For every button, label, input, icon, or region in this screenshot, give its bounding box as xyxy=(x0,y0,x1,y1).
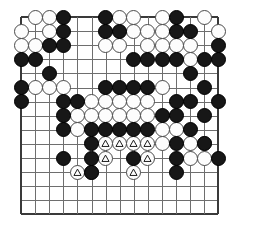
marked-white-stone[interactable] xyxy=(126,165,141,180)
black-stone[interactable] xyxy=(140,80,155,95)
black-stone[interactable] xyxy=(42,66,57,81)
marked-white-stone[interactable] xyxy=(70,165,85,180)
marked-white-stone[interactable] xyxy=(140,136,155,151)
white-stone[interactable] xyxy=(98,38,113,53)
black-stone[interactable] xyxy=(211,151,226,166)
white-stone[interactable] xyxy=(155,38,170,53)
black-stone[interactable] xyxy=(183,66,198,81)
black-stone[interactable] xyxy=(56,108,71,123)
white-stone[interactable] xyxy=(112,108,127,123)
white-stone[interactable] xyxy=(28,80,43,95)
black-stone[interactable] xyxy=(211,94,226,109)
black-stone[interactable] xyxy=(197,136,212,151)
black-stone[interactable] xyxy=(56,94,71,109)
black-stone[interactable] xyxy=(197,52,212,67)
black-stone[interactable] xyxy=(56,151,71,166)
white-stone[interactable] xyxy=(140,108,155,123)
goban[interactable] xyxy=(0,0,253,236)
black-stone[interactable] xyxy=(84,165,99,180)
white-stone[interactable] xyxy=(183,136,198,151)
black-stone[interactable] xyxy=(169,10,184,25)
white-stone[interactable] xyxy=(155,10,170,25)
black-stone[interactable] xyxy=(84,151,99,166)
black-stone[interactable] xyxy=(197,108,212,123)
black-stone[interactable] xyxy=(56,10,71,25)
marked-white-stone[interactable] xyxy=(126,136,141,151)
black-stone[interactable] xyxy=(28,52,43,67)
white-stone[interactable] xyxy=(42,10,57,25)
white-stone[interactable] xyxy=(155,24,170,39)
white-stone[interactable] xyxy=(183,38,198,53)
black-stone[interactable] xyxy=(56,24,71,39)
white-stone[interactable] xyxy=(84,94,99,109)
black-stone[interactable] xyxy=(70,94,85,109)
white-stone[interactable] xyxy=(42,80,57,95)
white-stone[interactable] xyxy=(98,94,113,109)
black-stone[interactable] xyxy=(197,80,212,95)
black-stone[interactable] xyxy=(183,94,198,109)
black-stone[interactable] xyxy=(169,151,184,166)
white-stone[interactable] xyxy=(140,38,155,53)
black-stone[interactable] xyxy=(140,52,155,67)
white-stone[interactable] xyxy=(140,24,155,39)
white-stone[interactable] xyxy=(28,38,43,53)
black-stone[interactable] xyxy=(126,80,141,95)
white-stone[interactable] xyxy=(28,10,43,25)
black-stone[interactable] xyxy=(155,108,170,123)
black-stone[interactable] xyxy=(112,80,127,95)
white-stone[interactable] xyxy=(112,10,127,25)
black-stone[interactable] xyxy=(56,38,71,53)
black-stone[interactable] xyxy=(84,122,99,137)
black-stone[interactable] xyxy=(169,52,184,67)
white-stone[interactable] xyxy=(84,108,99,123)
black-stone[interactable] xyxy=(98,10,113,25)
white-stone[interactable] xyxy=(169,38,184,53)
black-stone[interactable] xyxy=(126,151,141,166)
white-stone[interactable] xyxy=(70,108,85,123)
black-stone[interactable] xyxy=(169,165,184,180)
black-stone[interactable] xyxy=(98,24,113,39)
white-stone[interactable] xyxy=(197,10,212,25)
black-stone[interactable] xyxy=(14,94,29,109)
white-stone[interactable] xyxy=(140,94,155,109)
white-stone[interactable] xyxy=(98,108,113,123)
black-stone[interactable] xyxy=(56,122,71,137)
marked-white-stone[interactable] xyxy=(98,151,113,166)
marked-white-stone[interactable] xyxy=(98,136,113,151)
white-stone[interactable] xyxy=(70,122,85,137)
black-stone[interactable] xyxy=(211,52,226,67)
white-stone[interactable] xyxy=(211,24,226,39)
white-stone[interactable] xyxy=(14,38,29,53)
black-stone[interactable] xyxy=(98,122,113,137)
white-stone[interactable] xyxy=(197,151,212,166)
black-stone[interactable] xyxy=(169,136,184,151)
black-stone[interactable] xyxy=(84,136,99,151)
black-stone[interactable] xyxy=(112,122,127,137)
marked-white-stone[interactable] xyxy=(112,136,127,151)
white-stone[interactable] xyxy=(183,151,198,166)
black-stone[interactable] xyxy=(140,122,155,137)
white-stone[interactable] xyxy=(155,80,170,95)
marked-white-stone[interactable] xyxy=(140,151,155,166)
white-stone[interactable] xyxy=(169,122,184,137)
white-stone[interactable] xyxy=(14,24,29,39)
white-stone[interactable] xyxy=(56,80,71,95)
white-stone[interactable] xyxy=(42,24,57,39)
white-stone[interactable] xyxy=(126,108,141,123)
black-stone[interactable] xyxy=(126,52,141,67)
black-stone[interactable] xyxy=(169,94,184,109)
white-stone[interactable] xyxy=(112,38,127,53)
black-stone[interactable] xyxy=(112,24,127,39)
black-stone[interactable] xyxy=(155,52,170,67)
white-stone[interactable] xyxy=(155,136,170,151)
black-stone[interactable] xyxy=(183,24,198,39)
white-stone[interactable] xyxy=(126,24,141,39)
black-stone[interactable] xyxy=(183,122,198,137)
black-stone[interactable] xyxy=(211,38,226,53)
black-stone[interactable] xyxy=(98,80,113,95)
black-stone[interactable] xyxy=(14,52,29,67)
white-stone[interactable] xyxy=(183,52,198,67)
black-stone[interactable] xyxy=(14,80,29,95)
black-stone[interactable] xyxy=(42,38,57,53)
white-stone[interactable] xyxy=(155,122,170,137)
